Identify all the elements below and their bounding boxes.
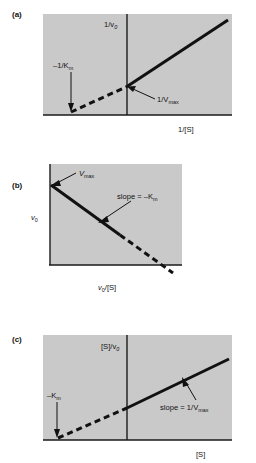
panel-b-eadie-hofstee: (b) Vmax slope = –Km bbox=[0, 150, 256, 302]
panel-c-plot: [S]/v0 –Km slope = 1/Vmax [S] bbox=[0, 302, 256, 463]
plot-area-background-c bbox=[43, 335, 232, 440]
x-axis-label-c: [S] bbox=[196, 450, 205, 459]
y-axis-label-b: v0 bbox=[31, 213, 38, 223]
x-axis-label-b: v0/[S] bbox=[98, 283, 116, 293]
panel-b-plot: Vmax slope = –Km v0 v0/[S] bbox=[0, 150, 256, 302]
x-axis-label-a: 1/[S] bbox=[178, 125, 194, 134]
figure-panels-container: (a) 1/v0 –1/Km bbox=[0, 0, 256, 463]
plot-area-background-b bbox=[50, 164, 182, 265]
slope-label-b: slope = –Km bbox=[117, 192, 158, 202]
panel-a-plot: 1/v0 –1/Km 1/Vmax 1/[S] bbox=[0, 0, 256, 150]
panel-c-hanes-woolf: (c) [S]/v0 –Km bbox=[0, 302, 256, 463]
panel-a-lineweaver-burk: (a) 1/v0 –1/Km bbox=[0, 0, 256, 150]
